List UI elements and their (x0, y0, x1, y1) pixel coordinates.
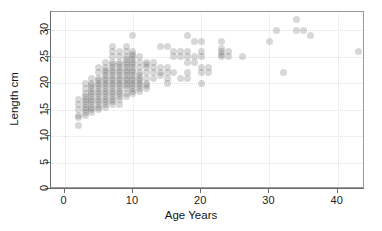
data-point (75, 96, 82, 103)
x-tick-mark (200, 188, 201, 193)
data-point (300, 27, 307, 34)
plot-area (50, 11, 364, 188)
data-point (191, 38, 198, 45)
data-point (116, 48, 123, 55)
x-tick-label: 30 (262, 194, 274, 206)
gridline-horizontal (51, 136, 363, 137)
data-point (293, 16, 300, 23)
data-point (273, 27, 280, 34)
x-axis-title: Age Years (0, 209, 382, 221)
y-tick-label: 25 (38, 56, 50, 68)
data-point (198, 80, 205, 87)
gridline-vertical (338, 12, 339, 187)
data-point (129, 32, 136, 39)
gridline-horizontal (51, 163, 363, 164)
data-point (75, 122, 82, 129)
y-axis-title: Length cm (8, 72, 20, 126)
y-tick-label: 0 (38, 188, 50, 194)
data-point (280, 69, 287, 76)
data-point (157, 43, 164, 50)
gridline-horizontal (51, 30, 363, 31)
gridline-vertical (65, 12, 66, 187)
y-tick-label: 5 (38, 162, 50, 168)
data-point (198, 48, 205, 55)
x-tick-label: 20 (194, 194, 206, 206)
data-point (157, 64, 164, 71)
data-point (150, 59, 157, 66)
data-point (266, 38, 273, 45)
data-point (184, 32, 191, 39)
x-tick-mark (64, 188, 65, 193)
y-tick-label: 20 (38, 82, 50, 94)
x-tick-mark (337, 188, 338, 193)
scatter-chart: 051015202530010203040 Length cm Age Year… (0, 0, 382, 231)
data-point (170, 69, 177, 76)
data-point (355, 48, 362, 55)
data-point (218, 38, 225, 45)
x-tick-mark (268, 188, 269, 193)
x-tick-label: 0 (61, 194, 67, 206)
data-point (239, 53, 246, 60)
x-tick-mark (132, 188, 133, 193)
data-point (307, 32, 314, 39)
x-axis-line (50, 188, 364, 189)
data-point (109, 43, 116, 50)
y-tick-label: 15 (38, 109, 50, 121)
data-point (198, 38, 205, 45)
data-point (205, 64, 212, 71)
y-axis-line (50, 11, 51, 188)
data-point (198, 64, 205, 71)
y-tick-label: 10 (38, 135, 50, 147)
x-tick-label: 10 (126, 194, 138, 206)
y-tick-label: 30 (38, 29, 50, 41)
x-tick-label: 40 (331, 194, 343, 206)
gridline-horizontal (51, 57, 363, 58)
